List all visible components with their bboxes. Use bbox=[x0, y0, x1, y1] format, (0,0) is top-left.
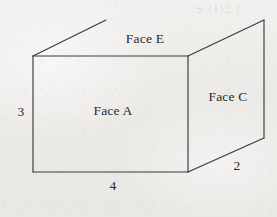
label-face-a: Face A bbox=[93, 104, 132, 118]
label-dimension-height: 3 bbox=[18, 105, 25, 119]
label-dimension-depth: 2 bbox=[234, 159, 241, 173]
figure-canvas: S (I)2 ( Face E Face A Face C 3 4 2 bbox=[0, 0, 277, 217]
edge-receding-top-right bbox=[188, 20, 264, 56]
edge-receding-top-left bbox=[33, 20, 106, 56]
edge-receding-bottom-right bbox=[188, 138, 264, 172]
label-face-c: Face C bbox=[208, 90, 247, 104]
label-dimension-width: 4 bbox=[110, 179, 117, 193]
label-face-e: Face E bbox=[126, 32, 164, 46]
